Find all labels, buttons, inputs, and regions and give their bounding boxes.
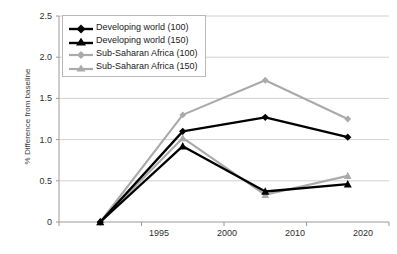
legend-item: Developing world (150): [68, 33, 198, 46]
legend-item: Sub-Saharan Africa (100): [68, 46, 198, 59]
series-4: [96, 134, 351, 225]
legend-item-label: Sub-Saharan Africa (150): [94, 61, 198, 71]
data-point-diamond: [344, 116, 351, 123]
legend-marker-triangle-light-icon: [68, 60, 94, 72]
legend-marker-diamond-light-icon: [68, 47, 94, 59]
legend-item-label: Developing world (100): [94, 22, 189, 32]
legend-item: Sub-Saharan Africa (150): [68, 59, 198, 72]
x-tick-label: 2010: [270, 228, 320, 238]
x-tick-label: 2020: [338, 228, 388, 238]
legend-item-label: Developing world (150): [94, 35, 189, 45]
x-tick-label: 1995: [134, 228, 184, 238]
data-point-triangle: [179, 142, 187, 150]
x-axis-tick-marks: [59, 222, 389, 226]
line-chart: % Difference from baseline 2.5 2.0 1.5 1…: [0, 0, 397, 254]
series-line: [100, 80, 348, 222]
legend-item-label: Sub-Saharan Africa (100): [94, 48, 198, 58]
legend-marker-diamond-dark-icon: [68, 21, 94, 33]
data-series-layer: [96, 77, 351, 226]
data-point-diamond: [262, 77, 269, 84]
legend-marker-triangle-dark-icon: [68, 34, 94, 46]
series-3: [97, 77, 351, 226]
data-point-diamond: [262, 114, 269, 121]
chart-legend: Developing world (100) Developing world …: [62, 15, 206, 77]
legend-item: Developing world (100): [68, 20, 198, 33]
x-tick-label: 2000: [202, 228, 252, 238]
